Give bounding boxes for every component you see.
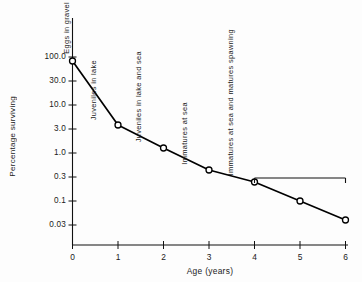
annotation-juveniles-in-lake: Juveniles in lake: [90, 60, 97, 120]
annotation-bracket: [255, 178, 346, 183]
annotation-immatures-at-sea-and-matures-spawning: Immatures at sea and matures spawning: [227, 29, 234, 175]
y-tick-label: 0.03: [22, 220, 66, 229]
x-tick-label: 6: [336, 252, 356, 262]
data-point: [343, 217, 349, 223]
y-tick-label: 100.0: [22, 52, 66, 61]
x-tick-label: 0: [63, 252, 83, 262]
annotation-juveniles-in-lake-and-sea: Juveniles in lake and sea: [135, 51, 142, 142]
annotation-eggs-in-gravel: Eggs in gravel: [63, 2, 70, 54]
data-point: [115, 122, 121, 128]
data-line: [73, 61, 346, 220]
y-axis-title: Percentage surviving: [8, 96, 17, 177]
y-tick-label: 3.0: [22, 124, 66, 133]
x-tick-label: 3: [199, 252, 219, 262]
y-tick-label: 0.1: [22, 196, 66, 205]
data-markers: [70, 58, 349, 223]
x-axis-title: Age (years): [155, 266, 265, 276]
x-tick-label: 2: [154, 252, 174, 262]
y-tick-label: 30.0: [22, 76, 66, 85]
data-point: [297, 198, 303, 204]
survival-curve-chart: 100.0 30.0 10.0 3.0 1.0 0.3 0.1 0.03 0 1…: [0, 0, 362, 282]
y-tick-label: 10.0: [22, 100, 66, 109]
y-tick-label: 1.0: [22, 148, 66, 157]
data-point: [70, 58, 76, 64]
annotation-immatures-at-sea: Immatures at sea: [181, 102, 188, 165]
data-point: [206, 167, 212, 173]
x-tick-label: 4: [245, 252, 265, 262]
x-tick-label: 1: [108, 252, 128, 262]
y-tick-label: 0.3: [22, 172, 66, 181]
data-point: [161, 145, 167, 151]
x-tick-label: 5: [290, 252, 310, 262]
